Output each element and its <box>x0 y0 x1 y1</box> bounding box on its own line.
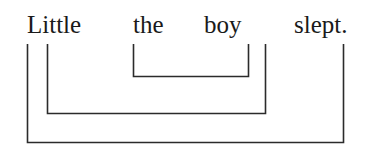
bracket-middle-little-the-boy <box>48 44 266 114</box>
bracket-inner-the-boy <box>134 44 249 77</box>
bracketing-diagram: Little the boy slept. <box>0 0 379 158</box>
bracket-outer-sentence <box>28 44 344 143</box>
bracket-svg-canvas <box>0 0 379 158</box>
bracket-group <box>0 0 379 158</box>
